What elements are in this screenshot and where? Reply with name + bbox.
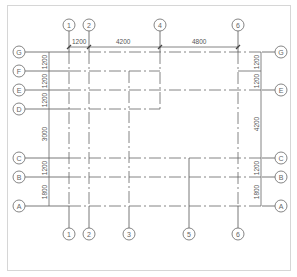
svg-text:G: G bbox=[16, 49, 21, 56]
svg-text:1: 1 bbox=[67, 22, 71, 29]
svg-text:E: E bbox=[279, 87, 284, 94]
right-dim-1: 1200 bbox=[253, 54, 260, 69]
top-dim-1: 1200 bbox=[72, 38, 87, 45]
left-dim-4: 3000 bbox=[41, 126, 48, 141]
grid-plan-drawing: 1200 4200 4800 1200 1200 1200 3000 1200 … bbox=[0, 0, 297, 277]
svg-text:A: A bbox=[279, 203, 284, 210]
svg-text:2: 2 bbox=[87, 22, 91, 29]
drawing-frame bbox=[8, 6, 291, 271]
svg-text:F: F bbox=[17, 68, 21, 75]
dimension-lines bbox=[49, 45, 261, 206]
svg-text:6: 6 bbox=[236, 22, 240, 29]
left-axis-bubbles: G F E D C B A bbox=[13, 46, 25, 212]
right-dim-3: 4200 bbox=[253, 116, 260, 131]
left-dim-6: 1800 bbox=[41, 184, 48, 199]
top-dim-3: 4800 bbox=[192, 38, 207, 45]
right-dim-2: 1200 bbox=[253, 73, 260, 88]
top-axis-bubbles: 1 2 4 6 bbox=[63, 19, 244, 31]
svg-text:6: 6 bbox=[236, 231, 240, 238]
left-dim-5: 1200 bbox=[41, 160, 48, 175]
vertical-axis-lines bbox=[69, 30, 238, 228]
svg-text:B: B bbox=[279, 174, 284, 181]
svg-text:B: B bbox=[17, 174, 22, 181]
top-dim-2: 4200 bbox=[116, 38, 131, 45]
svg-text:1: 1 bbox=[67, 231, 71, 238]
horizontal-axis-lines bbox=[25, 52, 275, 206]
svg-text:D: D bbox=[16, 106, 21, 113]
svg-text:E: E bbox=[17, 87, 22, 94]
right-dim-4: 1200 bbox=[253, 160, 260, 175]
svg-text:C: C bbox=[16, 155, 21, 162]
right-axis-bubbles: G E C B A bbox=[275, 46, 287, 212]
bottom-axis-bubbles: 1 2 3 5 6 bbox=[63, 228, 244, 240]
svg-text:4: 4 bbox=[158, 22, 162, 29]
svg-text:A: A bbox=[17, 203, 22, 210]
svg-text:3: 3 bbox=[127, 231, 131, 238]
left-dim-1: 1200 bbox=[41, 54, 48, 69]
svg-text:5: 5 bbox=[187, 231, 191, 238]
svg-text:2: 2 bbox=[87, 231, 91, 238]
right-dim-5: 1800 bbox=[253, 184, 260, 199]
svg-text:G: G bbox=[278, 49, 283, 56]
left-dim-2: 1200 bbox=[41, 73, 48, 88]
svg-text:C: C bbox=[278, 155, 283, 162]
left-dim-3: 1200 bbox=[41, 92, 48, 107]
